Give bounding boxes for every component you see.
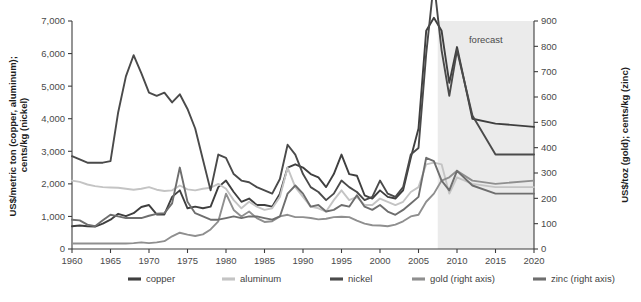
- y-left-tick-label: 3,000: [41, 146, 65, 157]
- y-left-tick-label: 7,000: [41, 15, 65, 26]
- forecast-band: [438, 21, 534, 249]
- x-tick-label: 2015: [485, 255, 506, 266]
- y-left-tick-label: 0: [60, 243, 65, 254]
- x-tick-label: 1960: [61, 255, 82, 266]
- y-right-tick-label: 0: [541, 243, 546, 254]
- y-right-tick-label: 900: [541, 15, 557, 26]
- y-left-tick-label: 4,000: [41, 113, 65, 124]
- y-right-tick-label: 400: [541, 142, 557, 153]
- commodity-price-chart: forecast 01,0002,0003,0004,0005,0006,000…: [0, 0, 641, 302]
- legend-label-zinc: zinc (right axis): [551, 273, 615, 284]
- y-left-tick-label: 2,000: [41, 178, 65, 189]
- y-left-tick-label: 6,000: [41, 48, 65, 59]
- x-tick-label: 2020: [523, 255, 544, 266]
- y-right-tick-label: 100: [541, 218, 557, 229]
- y-left-tick-label: 5,000: [41, 81, 65, 92]
- forecast-shaded-region: [438, 21, 534, 249]
- chart-svg: forecast 01,0002,0003,0004,0005,0006,000…: [0, 0, 641, 302]
- x-tick-label: 1985: [254, 255, 275, 266]
- legend-label-gold: gold (right axis): [430, 273, 495, 284]
- x-tick-label: 1990: [292, 255, 313, 266]
- x-tick-label: 2010: [446, 255, 467, 266]
- x-tick-label: 1970: [138, 255, 159, 266]
- x-tick-label: 2005: [408, 255, 429, 266]
- legend-label-copper: copper: [146, 273, 175, 284]
- y-right-tick-label: 500: [541, 117, 557, 128]
- y-right-tick-label: 800: [541, 41, 557, 52]
- y-axis-right-title: US$/toz (gold); cents/kg (zinc): [619, 67, 630, 203]
- x-tick-label: 1975: [177, 255, 198, 266]
- legend-label-aluminum: aluminum: [240, 273, 281, 284]
- y-right-tick-label: 700: [541, 66, 557, 77]
- x-tick-label: 2000: [369, 255, 390, 266]
- x-tick-label: 1995: [331, 255, 352, 266]
- y-right-tick-label: 600: [541, 91, 557, 102]
- x-tick-label: 1980: [215, 255, 236, 266]
- y-left-tick-label: 1,000: [41, 211, 65, 222]
- forecast-label: forecast: [469, 34, 503, 45]
- x-tick-label: 1965: [100, 255, 121, 266]
- legend-label-nickel: nickel: [348, 273, 372, 284]
- y-right-tick-label: 200: [541, 193, 557, 204]
- y-right-tick-label: 300: [541, 167, 557, 178]
